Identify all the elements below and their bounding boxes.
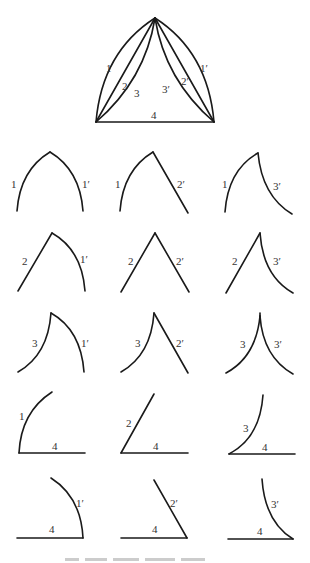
figure-caption-cutoff bbox=[65, 558, 255, 563]
panel-3-2prime: 3 2′ bbox=[121, 313, 188, 373]
label-side: 1′ bbox=[76, 497, 84, 509]
label-left: 3 bbox=[135, 337, 141, 349]
curve-1 bbox=[225, 153, 258, 212]
label-left: 3 bbox=[240, 338, 246, 350]
label-base: 4 bbox=[49, 523, 55, 535]
label-4: 4 bbox=[151, 109, 157, 121]
panel-2prime-4: 2′ 4 bbox=[121, 480, 187, 538]
curve-2 bbox=[96, 18, 155, 122]
label-side: 1 bbox=[19, 410, 25, 422]
curve-1 bbox=[19, 392, 52, 453]
panel-3-3prime: 3 3′ bbox=[226, 313, 293, 374]
panel-2-3prime: 2 3′ bbox=[226, 233, 293, 293]
main-figure: 1 2 3 3′ 2′ 1′ 4 bbox=[96, 18, 214, 122]
line-2-prime bbox=[154, 480, 187, 538]
label-base: 4 bbox=[152, 523, 158, 535]
diagram-canvas: 1 2 3 3′ 2′ 1′ 4 1 1′ 1 2′ 1 3′ 2 1′ 2 2… bbox=[0, 0, 310, 563]
label-base: 4 bbox=[153, 440, 159, 452]
panel-3-4: 3 4 bbox=[229, 395, 295, 454]
label-1: 1 bbox=[106, 62, 112, 74]
label-right: 3′ bbox=[273, 255, 281, 267]
label-base: 4 bbox=[52, 440, 58, 452]
label-left: 1 bbox=[11, 178, 17, 190]
label-side: 3 bbox=[243, 422, 249, 434]
label-left: 2 bbox=[22, 255, 28, 267]
panel-1-4: 1 4 bbox=[19, 392, 85, 453]
label-right: 2′ bbox=[177, 178, 185, 190]
panel-2-2prime: 2 2′ bbox=[121, 233, 189, 292]
curve-1 bbox=[120, 152, 153, 211]
panel-2-1prime: 2 1′ bbox=[18, 233, 88, 291]
curve-1 bbox=[17, 152, 50, 211]
label-2-prime: 2′ bbox=[181, 75, 189, 87]
label-3-prime: 3′ bbox=[162, 83, 170, 95]
label-1-prime: 1′ bbox=[200, 62, 208, 74]
curve-1-prime bbox=[50, 152, 83, 211]
label-side: 2 bbox=[126, 417, 132, 429]
panel-3prime-4: 3′ 4 bbox=[228, 479, 293, 539]
label-side: 3′ bbox=[271, 498, 279, 510]
label-right: 3′ bbox=[273, 180, 281, 192]
label-right: 1′ bbox=[80, 253, 88, 265]
panel-2-4: 2 4 bbox=[121, 394, 188, 453]
label-base: 4 bbox=[257, 525, 263, 537]
panel-1prime-4: 1′ 4 bbox=[17, 478, 84, 538]
label-right: 2′ bbox=[176, 255, 184, 267]
line-2 bbox=[121, 233, 155, 292]
label-left: 2 bbox=[232, 255, 238, 267]
label-base: 4 bbox=[262, 441, 268, 453]
label-left: 1 bbox=[115, 178, 121, 190]
label-right: 3′ bbox=[274, 338, 282, 350]
panel-3-1prime: 3 1′ bbox=[18, 313, 89, 372]
label-left: 2 bbox=[128, 255, 134, 267]
label-left: 1 bbox=[222, 178, 228, 190]
label-right: 1′ bbox=[81, 337, 89, 349]
label-right: 2′ bbox=[176, 337, 184, 349]
label-left: 3 bbox=[32, 337, 38, 349]
curve-1-prime bbox=[51, 313, 84, 372]
label-right: 1′ bbox=[82, 178, 90, 190]
label-3: 3 bbox=[134, 87, 140, 99]
panel-1-2prime: 1 2′ bbox=[115, 152, 188, 213]
panel-1-1prime: 1 1′ bbox=[11, 152, 90, 211]
label-side: 2′ bbox=[170, 497, 178, 509]
label-2: 2 bbox=[122, 80, 128, 92]
panel-1-3prime: 1 3′ bbox=[222, 153, 292, 214]
